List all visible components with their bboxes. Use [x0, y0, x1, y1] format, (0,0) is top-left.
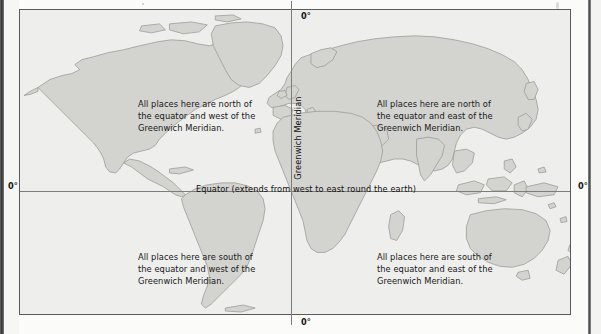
quadrant-label-north-west: All places here are north of the equator… [138, 98, 255, 135]
africa-landmass [273, 111, 383, 252]
alaska-peninsula [24, 87, 38, 95]
quadrant-label-south-east: All places here are south of the equator… [377, 251, 493, 288]
south-america-landmass [181, 183, 265, 308]
new-zealand-south [556, 256, 570, 274]
madagascar [389, 211, 405, 241]
degree-marker-top: 0° [301, 11, 311, 21]
pacific-islands [560, 217, 567, 223]
scan-speck [556, 2, 559, 9]
quadrant-label-south-west: All places here are south of the equator… [138, 251, 255, 288]
new-zealand-north [568, 240, 570, 254]
quadrant-label-north-east: All places here are north of the equator… [377, 98, 493, 135]
arctic-island-small [140, 24, 166, 33]
indochina [452, 149, 474, 173]
page-margin-left [4, 0, 19, 334]
page-margin-right [591, 0, 601, 334]
equator-label: Equator (extends from west to east round… [196, 184, 416, 194]
greenwich-meridian-label: Greenwich Meridian [293, 96, 303, 179]
atlantic-islands [255, 128, 261, 133]
pacific-islands [538, 167, 546, 173]
arctic-island-small [215, 15, 241, 22]
scan-speck [142, 3, 144, 5]
indonesia-borneo [486, 177, 512, 191]
tasmania [516, 270, 530, 280]
caribbean-islands [169, 167, 193, 174]
arctic-islands [169, 22, 207, 34]
degree-marker-left: 0° [8, 181, 18, 191]
philippines [504, 159, 516, 173]
indonesia-sumatra [456, 181, 484, 195]
indonesia-java [478, 197, 506, 204]
india-subcontinent [417, 137, 445, 181]
scanned-page: Equator (extends from west to east round… [0, 0, 601, 334]
pacific-islands [548, 203, 556, 209]
antarctic-fragment [225, 305, 255, 312]
map-frame: Equator (extends from west to east round… [19, 9, 571, 315]
greenwich-meridian-line [291, 1, 292, 325]
degree-marker-bottom: 0° [301, 317, 311, 327]
degree-marker-right: 0° [578, 181, 588, 191]
new-guinea [526, 183, 558, 197]
